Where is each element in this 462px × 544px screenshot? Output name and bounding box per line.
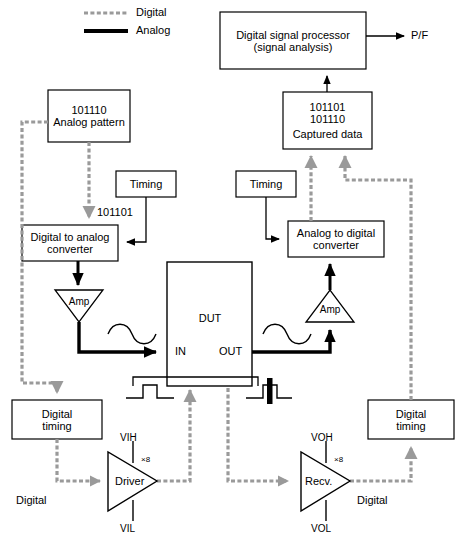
driver-label: Driver bbox=[115, 475, 144, 488]
wire-timing-left-to-dac bbox=[127, 197, 146, 242]
box-adc bbox=[288, 221, 384, 257]
waveform-pulse-left bbox=[126, 385, 174, 398]
dut-in-label: IN bbox=[175, 345, 186, 358]
block-diagram: Digital Analog 101110 Analog pattern Dig… bbox=[0, 0, 462, 544]
wire-digital-timing-right-to-captured bbox=[345, 156, 411, 400]
wire-timing-right-to-adc bbox=[266, 197, 279, 239]
digital-left-label: Digital bbox=[16, 494, 47, 507]
wire-receiver-to-digital-timing-right bbox=[350, 447, 411, 481]
wire-dut-to-receiver bbox=[228, 388, 288, 481]
dut-label: DUT bbox=[184, 312, 236, 325]
dac-input-code-label: 101101 bbox=[97, 206, 133, 219]
box-dac bbox=[22, 225, 118, 261]
receiver-label: Recv. bbox=[305, 475, 332, 488]
box-analog-pattern bbox=[48, 90, 130, 142]
digital-right-label: Digital bbox=[357, 494, 388, 507]
waveform-squiggle-right bbox=[263, 324, 311, 344]
box-timing-left bbox=[116, 171, 176, 197]
dut-out-label: OUT bbox=[219, 345, 242, 358]
waveform-squiggle-left bbox=[108, 324, 156, 344]
voh-label: VOH bbox=[311, 432, 333, 444]
amp-right-label: Amp bbox=[312, 304, 348, 316]
amp-left-label: Amp bbox=[61, 296, 97, 308]
diagram-canvas bbox=[0, 0, 462, 544]
receiver-multiplier-label: ×8 bbox=[334, 455, 343, 464]
wire-driver-to-dut bbox=[157, 390, 190, 481]
vol-label: VOL bbox=[311, 523, 331, 535]
driver-multiplier-label: ×8 bbox=[141, 455, 150, 464]
box-captured-data bbox=[283, 92, 372, 149]
box-digital-timing-right bbox=[368, 400, 454, 439]
wire-amp-left-to-dut-in bbox=[79, 322, 156, 352]
wire-digital-timing-left-to-driver bbox=[57, 439, 100, 481]
box-timing-right bbox=[236, 171, 296, 197]
box-dsp bbox=[220, 12, 366, 69]
legend-label-analog: Analog bbox=[136, 24, 170, 37]
vih-label: VIH bbox=[120, 432, 137, 444]
pass-fail-label: P/F bbox=[411, 29, 428, 42]
vil-label: VIL bbox=[120, 523, 135, 535]
legend-label-digital: Digital bbox=[136, 6, 167, 19]
box-digital-timing-left bbox=[12, 400, 102, 439]
waveform-marker-bar bbox=[267, 378, 273, 404]
